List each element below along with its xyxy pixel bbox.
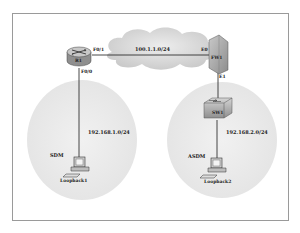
- lan-right-network-label: 192.168.2.0/24: [226, 130, 268, 135]
- wan-network-label: 100.1.1.0/24: [135, 47, 170, 52]
- switch-name: SW1: [212, 111, 223, 116]
- pc-right-role: ASDM: [188, 154, 205, 159]
- pc-left-name: Loopback1: [60, 179, 87, 184]
- router-if-lan: F0/0: [81, 70, 92, 75]
- lan-left-network-label: 192.168.1.0/24: [88, 130, 130, 135]
- pc-right-name: Loopback2: [204, 180, 231, 185]
- firewall-if-outside: E0: [201, 48, 208, 53]
- firewall-if-inside: E1: [219, 75, 226, 80]
- firewall-name: FW1: [211, 56, 222, 61]
- router-if-wan: F0/1: [93, 48, 104, 53]
- pc-left-role: SDM: [50, 153, 63, 158]
- router-name: R1: [75, 59, 82, 64]
- network-topology: [0, 0, 300, 233]
